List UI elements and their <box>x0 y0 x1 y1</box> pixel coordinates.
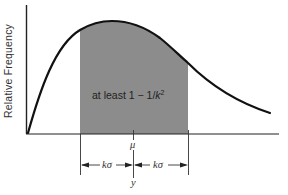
left-k-sigma-label: kσ <box>101 160 113 170</box>
region-label-exponent: 2 <box>161 89 165 96</box>
arrowhead-right-out <box>180 163 188 168</box>
y-variable-label: y <box>130 178 137 188</box>
right-k-sigma-label: kσ <box>152 160 164 170</box>
arrowhead-right-in <box>134 163 142 168</box>
y-axis-label: Relative Frequency <box>2 24 14 118</box>
arrowhead-left-in <box>125 163 133 168</box>
shaded-region <box>80 21 188 134</box>
shaded-region-label: at least 1 − 1/k2 <box>92 89 165 101</box>
arrowhead-left-out <box>81 163 89 168</box>
chebyshev-diagram: Relative Frequency at least 1 − 1/k2 μ k… <box>0 0 288 195</box>
mu-label: μ <box>129 140 136 150</box>
region-label-prefix: at least 1 − 1/ <box>92 89 155 101</box>
